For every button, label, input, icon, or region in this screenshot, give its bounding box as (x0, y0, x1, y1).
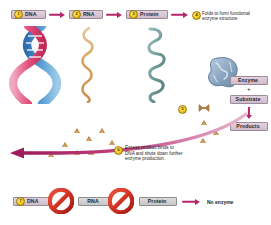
step-6-badge: 6 (114, 146, 123, 155)
enzyme-box[interactable]: Enzyme (230, 76, 268, 85)
dna-double-helix-icon (8, 26, 64, 104)
bottom-rna-chip[interactable]: RNA (78, 197, 110, 206)
plus-sign: + (247, 86, 251, 93)
protein-chain-icon (142, 27, 170, 103)
bottom-dna-label: DNA (27, 198, 39, 205)
step-6-note: Excess product binds to DNA and shuts do… (125, 145, 205, 162)
step-1-dna-chip[interactable]: 1 DNA (11, 10, 46, 19)
step-1-label: DNA (25, 11, 37, 18)
enzyme-label: Enzyme (238, 77, 258, 84)
step-3-label: Protein (140, 11, 159, 18)
substrate-box[interactable]: Substrate (230, 95, 268, 104)
prohibition-sign-icon (108, 188, 134, 214)
bottom-protein-chip[interactable]: Protein (139, 197, 177, 206)
step-2-badge: 2 (72, 10, 81, 19)
step-7-badge: 7 (16, 197, 25, 206)
step-2-label: RNA (83, 11, 95, 18)
bottom-protein-label: Protein (148, 198, 167, 205)
step-4-badge: 4 (192, 11, 201, 20)
step-3-protein-chip[interactable]: 3 Protein (126, 10, 168, 19)
diagram-canvas: 1 DNA 2 RNA 3 Protein 4 Folds to form fu… (0, 0, 271, 225)
bottom-rna-label: RNA (87, 198, 99, 205)
bottom-dna-chip[interactable]: 7 DNA (13, 197, 49, 206)
step-4-note: Folds to form functional enzyme structur… (202, 11, 270, 22)
substrate-label: Substrate (236, 96, 261, 103)
step-3-badge: 3 (129, 10, 138, 19)
rna-strand-icon (77, 27, 99, 103)
step-1-badge: 1 (14, 10, 23, 19)
no-enzyme-label: No enzyme (207, 199, 233, 205)
step-2-rna-chip[interactable]: 2 RNA (69, 10, 103, 19)
prohibition-sign-icon (48, 188, 74, 214)
